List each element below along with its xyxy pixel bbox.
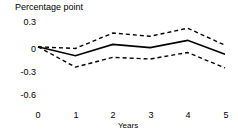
- chart-container: Percentage point 0.3 0 -0.3 -0.6 0 1 2 3…: [0, 0, 238, 138]
- plot-area: [0, 0, 238, 138]
- series-lower-confidence-band: [38, 47, 225, 68]
